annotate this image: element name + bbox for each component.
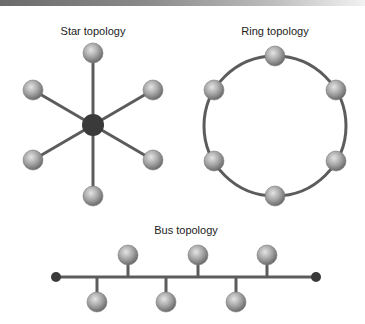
bus-node [87,292,107,312]
star-node [143,80,163,100]
star-node [143,150,163,170]
bus-node [226,292,246,312]
ring-topology [204,46,346,206]
star-hub [82,114,104,136]
bus-topology [51,245,321,312]
star-node [23,150,43,170]
bus-terminator [311,272,321,282]
bus-node [118,245,138,265]
bus-node [188,245,208,265]
star-node [83,43,103,63]
ring-node [265,186,285,206]
ring-link [204,56,346,196]
bus-node [156,292,176,312]
bus-terminator [51,272,61,282]
ring-node [204,151,224,171]
topology-diagram-canvas [0,0,365,324]
ring-node [265,46,285,66]
bus-node [257,245,277,265]
star-topology [23,43,163,206]
ring-node [204,80,224,100]
ring-node [326,151,346,171]
star-node [83,186,103,206]
star-node [23,80,43,100]
ring-node [326,80,346,100]
